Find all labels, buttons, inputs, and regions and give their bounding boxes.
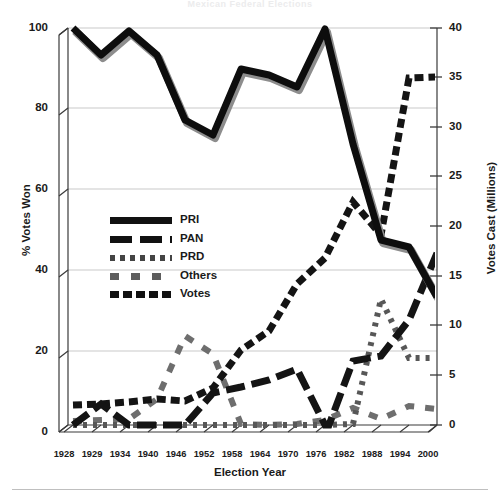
secondary-y-tick-label: 35 <box>449 71 462 83</box>
y-tick-label: 20 <box>4 345 48 357</box>
legend-swatch-votes <box>110 291 172 298</box>
legend-item-pri: PRI <box>110 212 220 231</box>
legend-swatch-others <box>110 273 172 280</box>
legend-item-others: Others <box>110 268 220 287</box>
secondary-y-tick-label: 10 <box>449 319 462 331</box>
y-tick-label: 40 <box>4 264 48 276</box>
secondary-y-tick-label: 15 <box>449 270 462 282</box>
secondary-y-tick-label: 0 <box>449 419 455 431</box>
chart-legend: PRI PAN PRD Others Votes <box>110 212 220 305</box>
legend-swatch-pan <box>110 236 172 243</box>
y-tick-label: 80 <box>4 102 48 114</box>
chart-figure: Mexican Federal Elections % Votes Won Vo… <box>0 0 500 496</box>
legend-label-prd: PRD <box>180 250 204 262</box>
legend-swatch-pri <box>110 217 172 224</box>
legend-label-votes: Votes <box>180 287 210 299</box>
y-tick-label: 0 <box>4 426 48 438</box>
legend-swatch-prd <box>110 255 172 261</box>
x-tick-label: 2000 <box>404 450 452 459</box>
left-tick-marks <box>59 28 68 432</box>
secondary-y-tick-label: 5 <box>449 369 455 381</box>
x-tick-marks <box>64 425 437 432</box>
legend-label-pan: PAN <box>180 232 203 244</box>
y-tick-label: 100 <box>4 22 48 34</box>
secondary-y-tick-label: 30 <box>449 121 462 133</box>
legend-label-others: Others <box>180 269 217 281</box>
plot-canvas <box>0 0 500 496</box>
series-line-prd <box>73 299 437 425</box>
legend-label-pri: PRI <box>180 213 199 225</box>
y-tick-label: 60 <box>4 183 48 195</box>
secondary-y-tick-label: 25 <box>449 170 462 182</box>
secondary-y-tick-label: 40 <box>449 22 462 34</box>
right-tick-marks <box>430 28 442 425</box>
legend-item-prd: PRD <box>110 249 220 268</box>
secondary-y-tick-label: 20 <box>449 220 462 232</box>
legend-item-votes: Votes <box>110 286 220 305</box>
legend-item-pan: PAN <box>110 231 220 250</box>
